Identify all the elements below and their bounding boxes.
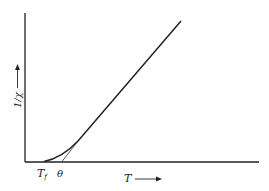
y-axis-label-group: 1/χ	[12, 64, 23, 108]
inverse-susceptibility-curve	[44, 21, 181, 162]
diagram: 1/χ Tf θ T	[0, 0, 269, 191]
tf-label: Tf	[37, 167, 48, 181]
y-axis-label: 1/χ	[12, 91, 23, 108]
extrapolation-line	[62, 141, 78, 162]
x-axis-arrowhead-icon	[156, 177, 162, 182]
y-axis-arrowhead-icon	[15, 64, 20, 70]
theta-label: θ	[57, 168, 63, 179]
x-axis-label: T	[124, 172, 133, 185]
